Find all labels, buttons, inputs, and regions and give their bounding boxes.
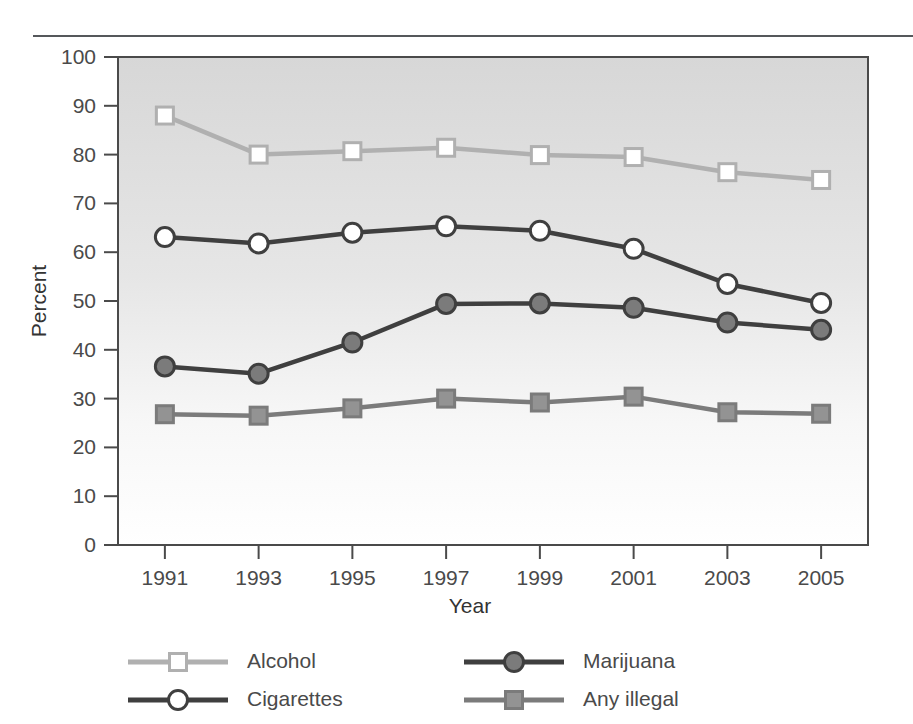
data-point	[531, 147, 548, 164]
data-point	[155, 228, 174, 247]
legend-marker	[506, 692, 523, 709]
y-tick-label: 80	[73, 143, 96, 166]
data-point	[344, 400, 361, 417]
data-point	[625, 149, 642, 166]
data-point	[156, 107, 173, 124]
x-tick-label: 2005	[798, 566, 845, 589]
x-axis-title: Year	[449, 594, 491, 617]
y-tick-label: 40	[73, 338, 96, 361]
data-point	[719, 164, 736, 181]
y-tick-label: 100	[61, 45, 96, 68]
y-tick-label: 20	[73, 435, 96, 458]
legend-label: Cigarettes	[247, 687, 343, 710]
data-point	[813, 405, 830, 422]
figure-container: 0102030405060708090100 19911993199519971…	[0, 0, 913, 724]
y-tick-label: 60	[73, 240, 96, 263]
y-tick-label: 70	[73, 191, 96, 214]
data-point	[624, 298, 643, 317]
data-point	[437, 294, 456, 313]
data-point	[812, 320, 831, 339]
legend-item-any-illegal[interactable]: Any illegal	[464, 687, 679, 710]
data-point	[813, 171, 830, 188]
data-point	[438, 139, 455, 156]
legend-marker	[169, 691, 188, 710]
legend-marker	[505, 653, 524, 672]
data-point	[624, 239, 643, 258]
data-point	[438, 390, 455, 407]
data-point	[250, 407, 267, 424]
data-point	[718, 274, 737, 293]
x-tick-label: 2001	[610, 566, 657, 589]
x-tick-label: 1997	[423, 566, 470, 589]
legend-item-cigarettes[interactable]: Cigarettes	[128, 687, 343, 710]
y-axis-title: Percent	[27, 265, 50, 338]
x-axis: 19911993199519971999200120032005	[142, 545, 845, 589]
line-chart: 0102030405060708090100 19911993199519971…	[0, 0, 913, 724]
y-tick-label: 10	[73, 484, 96, 507]
legend-item-alcohol[interactable]: Alcohol	[128, 649, 316, 672]
data-point	[530, 221, 549, 240]
plot-area	[118, 57, 868, 545]
x-tick-label: 1993	[235, 566, 282, 589]
data-point	[249, 364, 268, 383]
data-point	[249, 234, 268, 253]
data-point	[437, 217, 456, 236]
x-tick-label: 1999	[517, 566, 564, 589]
y-tick-label: 0	[84, 533, 96, 556]
data-point	[155, 357, 174, 376]
y-axis: 0102030405060708090100	[61, 45, 118, 556]
y-tick-label: 30	[73, 387, 96, 410]
data-point	[250, 146, 267, 163]
data-point	[343, 223, 362, 242]
x-tick-label: 2003	[704, 566, 751, 589]
legend-marker	[170, 654, 187, 671]
data-point	[530, 294, 549, 313]
data-point	[344, 143, 361, 160]
x-tick-label: 1995	[329, 566, 376, 589]
legend-item-marijuana[interactable]: Marijuana	[464, 649, 676, 672]
chart-legend: AlcoholMarijuanaCigarettesAny illegal	[128, 649, 679, 710]
legend-label: Any illegal	[583, 687, 679, 710]
data-point	[812, 293, 831, 312]
legend-label: Alcohol	[247, 649, 316, 672]
x-tick-label: 1991	[142, 566, 189, 589]
legend-label: Marijuana	[583, 649, 676, 672]
data-point	[719, 404, 736, 421]
y-tick-label: 50	[73, 289, 96, 312]
data-point	[625, 388, 642, 405]
y-tick-label: 90	[73, 94, 96, 117]
data-point	[718, 313, 737, 332]
data-point	[156, 406, 173, 423]
data-point	[531, 394, 548, 411]
data-point	[343, 333, 362, 352]
